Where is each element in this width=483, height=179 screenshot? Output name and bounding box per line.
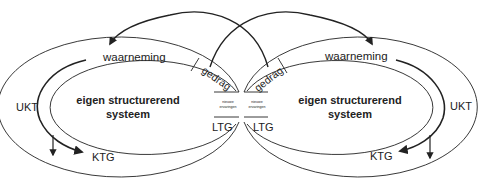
left-stm-label: KTG [92,151,115,163]
right-perception-label: waarneming [324,50,388,62]
diagram-svg: waarneming gedrag nieuwe ervaringen LTG … [0,0,483,179]
left-perception-label: waarneming [102,51,166,63]
left-behavior-label: gedrag [200,64,234,93]
right-ltm-label: LTG [253,121,274,133]
right-core-label-line1: eigen structurerend [298,94,401,106]
right-behavior-label: gedrag [252,64,285,94]
right-stm-label: KTG [370,150,393,162]
right-ukt-label: UKT [450,100,472,112]
left-ukt-label: UKT [16,101,38,113]
left-new-experiences-line2: ervaringen [220,105,237,109]
diagram-canvas: waarneming gedrag nieuwe ervaringen LTG … [0,0,483,179]
left-ltm-label: LTG [212,121,233,133]
left-core-label-line1: eigen structurerend [76,94,179,106]
right-new-experiences-line2: ervaringen [249,105,266,109]
left-core-label-line2: systeem [106,108,150,120]
right-new-experiences-line1: nieuwe [251,100,262,104]
left-new-experiences-line1: nieuwe [222,100,233,104]
right-core-label-line2: systeem [328,108,372,120]
